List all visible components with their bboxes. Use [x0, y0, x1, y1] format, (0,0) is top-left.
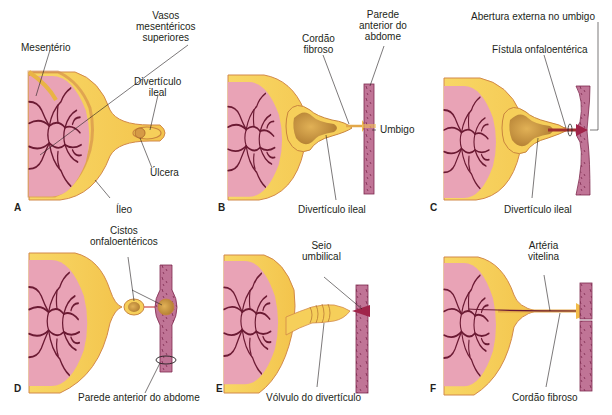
ileal-diverticulum-figure: Mesentério Vasos mesentéricos superiores… — [0, 0, 612, 415]
panel-c-illustration — [408, 0, 612, 200]
label-ileum: Íleo — [116, 204, 132, 215]
label-fibrous-cord-f: Cordão fibroso — [512, 392, 578, 403]
label-diverticulum-volvulus: Vólvulo do divertículo — [266, 392, 361, 403]
label-ulcer: Úlcera — [150, 167, 179, 178]
label-anterior-abdominal-wall: Parede anterior do abdome — [359, 9, 407, 42]
panel-a: Mesentério Vasos mesentéricos superiores… — [0, 0, 204, 200]
panel-letter-c: C — [430, 202, 437, 213]
label-mesentery: Mesentério — [21, 42, 70, 53]
panel-letter-b: B — [218, 202, 225, 213]
panel-letter-a: A — [14, 202, 21, 213]
panel-letter-f: F — [430, 383, 436, 394]
panel-f: Artéria vitelina — [408, 215, 612, 400]
panel-b: Cordão fibroso Parede anterior do abdome… — [204, 0, 408, 200]
label-external-opening-umbilicus: Abertura externa no umbigo — [471, 11, 595, 22]
label-ileal-diverticulum-c: Divertículo ileal — [504, 204, 572, 215]
panel-letter-d: D — [14, 383, 21, 394]
label-omphaloenteric-fistula: Fístula onfaloentérica — [492, 44, 588, 55]
label-ileal-diverticulum-b: Divertículo ileal — [298, 204, 366, 215]
label-anterior-abdominal-wall-d: Parede anterior do abdome — [78, 392, 200, 403]
panel-letter-e: E — [216, 383, 223, 394]
label-fibrous-cord: Cordão fibroso — [302, 33, 335, 55]
label-superior-mesenteric-vessels: Vasos mesentéricos superiores — [136, 10, 195, 43]
label-vitelline-artery: Artéria vitelina — [528, 240, 559, 262]
panel-e: Seio umbilical — [204, 215, 408, 400]
label-ileal-diverticulum: Divertículo ileal — [134, 76, 181, 98]
label-umbilical-sinus: Seio umbilical — [302, 240, 341, 262]
panel-c: Abertura externa no umbigo Fístula onfal… — [408, 0, 612, 200]
label-omphaloenteric-cysts: Cistos onfaloentéricos — [90, 225, 158, 247]
panel-f-illustration — [408, 215, 612, 400]
panel-d: Cistos onfaloentéricos — [0, 215, 204, 400]
